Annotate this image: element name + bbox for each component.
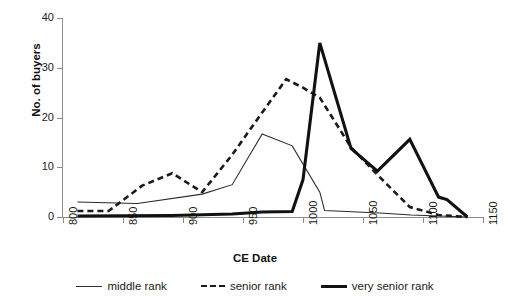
x-axis-tick [183,217,184,223]
legend-label: middle rank [107,280,166,292]
legend-swatch-dashed-line-icon [201,285,225,287]
x-axis-tick [423,217,424,223]
y-axis-tick-label: 20 [20,112,54,123]
legend-swatch-line-icon [76,286,102,287]
legend-item-very-senior-rank: very senior rank [321,280,434,292]
legend-item-middle-rank: middle rank [76,280,166,292]
chart-figure: No. of buyers 010203040 8008509009501000… [0,0,510,306]
x-axis-tick-label: 1150 [488,201,499,225]
series-lines [63,18,483,217]
x-axis-title: CE Date [0,252,510,264]
y-axis-tick-label: 10 [20,161,54,172]
legend-item-senior-rank: senior rank [201,280,287,292]
x-axis-tick [63,217,64,223]
chart-legend: middle rank senior rank very senior rank [0,276,510,296]
series-line-senior-rank [77,79,467,217]
x-axis-tick [243,217,244,223]
y-axis-tick-label: 0 [20,211,54,222]
x-axis-tick [303,217,304,223]
y-axis-tick-label: 40 [20,12,54,23]
x-axis-tick [123,217,124,223]
x-axis-tick [363,217,364,223]
y-axis-tick-label: 30 [20,62,54,73]
plot-area [63,18,483,217]
legend-swatch-thick-line-icon [321,285,347,288]
legend-label: senior rank [230,280,287,292]
legend-label: very senior rank [352,280,434,292]
x-axis-tick [483,217,484,223]
